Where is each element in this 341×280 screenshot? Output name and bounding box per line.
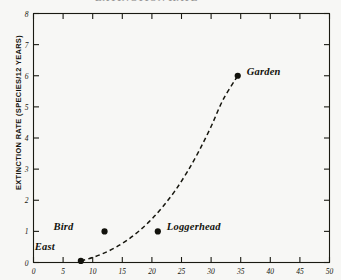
data-point-label: Garden — [247, 66, 281, 77]
x-tick-label: 0 — [32, 267, 36, 276]
x-tick-label: 35 — [237, 267, 245, 276]
y-tick-label: 2 — [16, 196, 29, 205]
x-tick-label: 5 — [61, 267, 65, 276]
x-tick-label: 50 — [326, 267, 334, 276]
y-tick-label: 6 — [16, 71, 29, 80]
data-point-dot — [78, 258, 84, 264]
data-point-label: East — [0, 241, 55, 252]
data-point-dot — [101, 228, 107, 234]
data-point-label: Loggerhead — [167, 221, 221, 232]
y-tick-label: 7 — [16, 40, 29, 49]
data-point-label: Bird — [0, 221, 74, 232]
figure-container: EXTINCTION RATE EXTINCTION RATE (SPECIES… — [0, 0, 341, 280]
x-tick-label: 30 — [207, 267, 215, 276]
y-tick-label: 5 — [16, 102, 29, 111]
chart-canvas — [0, 0, 341, 280]
y-tick-label: 4 — [16, 134, 29, 143]
y-tick-label: 8 — [16, 9, 29, 18]
y-tick-label: 3 — [16, 165, 29, 174]
x-tick-label: 45 — [296, 267, 304, 276]
x-tick-label: 40 — [267, 267, 275, 276]
y-axis-ticks-right — [324, 14, 330, 263]
x-axis-ticks-top — [34, 14, 330, 20]
data-points — [78, 73, 241, 264]
y-tick-label: 0 — [16, 258, 29, 267]
x-tick-label: 10 — [89, 267, 97, 276]
x-tick-label: 25 — [178, 267, 186, 276]
data-point-dot — [155, 228, 161, 234]
data-point-dot — [235, 73, 241, 79]
x-tick-label: 15 — [119, 267, 127, 276]
x-tick-label: 20 — [148, 267, 156, 276]
